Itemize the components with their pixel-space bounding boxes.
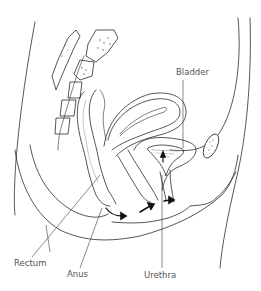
label-urethra: Urethra — [144, 271, 176, 280]
urethra-tube — [160, 172, 166, 200]
pelvic-anatomy-diagram: Bladder Rectum Anus Urethra — [0, 0, 261, 291]
rectum — [77, 90, 116, 206]
abdomen-outline-inner — [170, 18, 239, 151]
leader-rectum-a — [32, 175, 100, 257]
flow-arrow-bladder — [161, 152, 165, 157]
flow-arrows — [106, 152, 174, 219]
inner-pelvic-floor-outline — [30, 145, 108, 217]
perineum-skin-line — [112, 172, 236, 223]
outer-body-outline — [15, 150, 238, 240]
flow-arrow-vaginal — [148, 203, 154, 209]
label-rectum: Rectum — [14, 259, 46, 268]
leader-rectum-b — [46, 225, 50, 252]
bladder-organ — [134, 138, 196, 191]
label-anus: Anus — [67, 270, 88, 279]
sacrum-bone — [52, 30, 118, 150]
abdomen-outline-outer — [220, 18, 250, 268]
vagina-wall — [128, 150, 158, 200]
vagina — [118, 156, 150, 202]
label-bladder: Bladder — [176, 68, 209, 77]
flow-arrow-anal — [121, 213, 126, 219]
diagram-artwork — [0, 0, 261, 291]
